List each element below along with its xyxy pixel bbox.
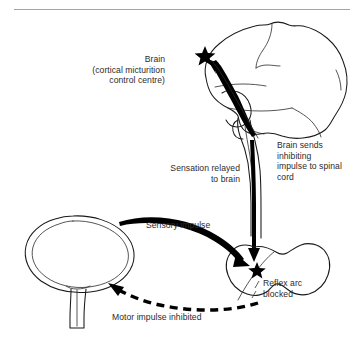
label-reflex-arc-blocked: Reflex arc blocked — [263, 278, 333, 299]
micturition-reflex-figure: Brain (cortical micturition control cent… — [0, 0, 364, 339]
reflex-leader-1 — [255, 281, 259, 288]
label-sensation-relayed: Sensation relayed to brain — [152, 163, 240, 184]
reflex-leader-2 — [252, 291, 256, 298]
label-sensory-impulse: Sensory impulse — [146, 220, 241, 231]
label-brain: Brain (cortical micturition control cent… — [40, 54, 165, 86]
star-marker-spinal — [248, 262, 266, 279]
label-motor-impulse-inhibited: Motor impulse inhibited — [112, 312, 272, 323]
brain-lateral-view — [205, 22, 347, 238]
label-brain-sends-inhibiting: Brain sends inhibiting impulse to spinal… — [277, 140, 362, 182]
